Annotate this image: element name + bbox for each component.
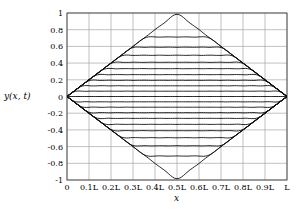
svg-text:-0.2: -0.2 [48, 109, 63, 118]
svg-text:-0.6: -0.6 [48, 143, 63, 152]
svg-text:0.2L: 0.2L [102, 183, 121, 192]
svg-text:0: 0 [64, 183, 69, 192]
x-axis-label: x [174, 193, 179, 203]
svg-text:0.2: 0.2 [50, 76, 63, 85]
svg-text:0.1L: 0.1L [80, 183, 99, 192]
svg-text:0.5L: 0.5L [168, 183, 187, 192]
svg-text:-0.4: -0.4 [48, 126, 63, 135]
svg-text:-1: -1 [55, 176, 63, 185]
svg-text:L: L [284, 183, 290, 192]
svg-text:1: 1 [58, 9, 63, 18]
chart: 00.1L0.2L0.3L0.4L0.5L0.6L0.7L0.8L0.9LL-1… [0, 0, 300, 211]
svg-text:0.4L: 0.4L [146, 183, 165, 192]
svg-text:0.6: 0.6 [50, 42, 63, 51]
y-axis-label: y(x, t) [4, 91, 31, 101]
svg-text:0.4: 0.4 [50, 59, 63, 68]
svg-text:0.9L: 0.9L [256, 183, 275, 192]
svg-text:0.8: 0.8 [50, 26, 63, 35]
svg-text:0: 0 [58, 93, 63, 102]
svg-text:0.8L: 0.8L [234, 183, 253, 192]
line-chart: 00.1L0.2L0.3L0.4L0.5L0.6L0.7L0.8L0.9LL-1… [0, 0, 300, 211]
svg-text:0.3L: 0.3L [124, 183, 143, 192]
svg-text:0.7L: 0.7L [212, 183, 231, 192]
svg-text:-0.8: -0.8 [48, 159, 63, 168]
svg-text:0.6L: 0.6L [190, 183, 209, 192]
